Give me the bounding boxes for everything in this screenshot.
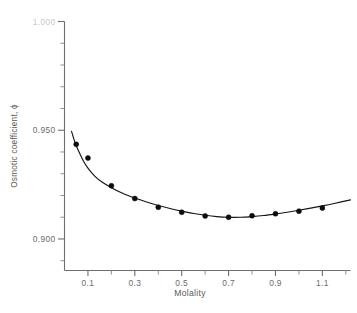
x-tick-label: 0.7 <box>222 278 235 288</box>
data-point <box>320 206 325 211</box>
data-point <box>273 211 278 216</box>
x-tick-label: 1.1 <box>316 278 329 288</box>
data-point <box>109 183 114 188</box>
plot-background <box>0 0 357 313</box>
y-tick-label: 0.900 <box>33 234 56 244</box>
y-axis-title: Osmotic coefficient, ϕ <box>10 104 19 188</box>
data-point <box>296 209 301 214</box>
data-point <box>203 213 208 218</box>
data-point <box>85 156 90 161</box>
plot-canvas: 1.0000.9500.900 0.10.30.50.70.91.1 Molal… <box>0 0 357 313</box>
data-point <box>156 205 161 210</box>
chart-figure: 1.0000.9500.900 0.10.30.50.70.91.1 Molal… <box>0 0 357 313</box>
data-point <box>226 215 231 220</box>
x-tick-label: 0.9 <box>269 278 282 288</box>
data-point <box>132 196 137 201</box>
x-tick-label: 0.5 <box>175 278 188 288</box>
x-tick-label: 0.3 <box>128 278 141 288</box>
y-tick-label: 1.000 <box>33 17 56 27</box>
data-point <box>250 213 255 218</box>
data-point <box>179 210 184 215</box>
y-tick-label: 0.950 <box>33 125 56 135</box>
x-axis-title: Molality <box>174 288 206 298</box>
x-tick-label: 0.1 <box>82 278 95 288</box>
data-point <box>74 142 79 147</box>
